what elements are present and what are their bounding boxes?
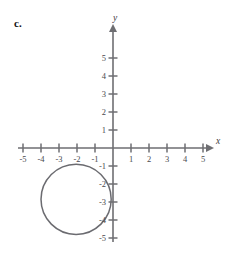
x-tick-label: 5: [201, 154, 205, 164]
y-tick-label: -2: [99, 179, 106, 189]
x-tick-label: -4: [37, 154, 45, 164]
x-axis-label: x: [215, 136, 221, 146]
x-tick-label: -1: [91, 154, 98, 164]
part-label: c.: [14, 18, 22, 29]
x-axis-arrow: [206, 144, 214, 152]
y-tick-label: 5: [102, 53, 106, 63]
x-tick-label: 2: [147, 154, 151, 164]
y-tick-label: 2: [102, 107, 106, 117]
graph-figure: c. -5-4-3-2-112345 54321-1-2-3-4-5 x y: [0, 0, 228, 260]
coordinate-plane: -5-4-3-2-112345 54321-1-2-3-4-5 x y: [0, 0, 228, 260]
x-tick-label: -2: [73, 154, 80, 164]
y-tick-label: -5: [99, 233, 106, 243]
x-tick-label: -3: [55, 154, 62, 164]
y-axis-label: y: [112, 13, 118, 23]
x-tick-label: -5: [19, 154, 26, 164]
y-tick-label: 4: [102, 71, 107, 81]
x-tick-label: 4: [183, 154, 188, 164]
y-tick-label: -3: [99, 197, 106, 207]
x-tick-label: 1: [129, 154, 133, 164]
x-tick-label: 3: [165, 154, 169, 164]
y-tick-label: 3: [102, 89, 106, 99]
y-tick-label: -4: [99, 215, 107, 225]
y-axis-arrow: [109, 24, 117, 32]
y-tick-label: 1: [102, 125, 106, 135]
y-tick-label: -1: [99, 161, 106, 171]
